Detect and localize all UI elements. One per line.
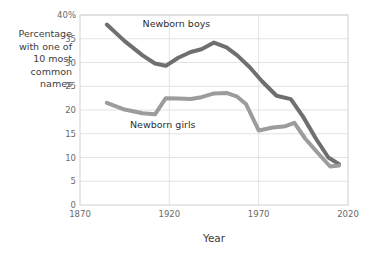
chart-container: Percentage with one of 10 most common na…: [0, 0, 365, 256]
series-label-newborn-boys: Newborn boys: [143, 18, 211, 29]
x-axis-title: Year: [80, 232, 348, 244]
series-label-newborn-girls: Newborn girls: [130, 119, 196, 130]
